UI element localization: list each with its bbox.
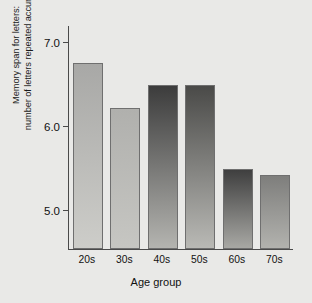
- bar-series: [69, 26, 293, 249]
- bar-70s: [260, 175, 290, 249]
- x-tick-label-70s: 70s: [266, 254, 283, 265]
- x-tick-label-20s: 20s: [78, 254, 95, 265]
- y-tick-label: 5.0: [44, 205, 60, 217]
- x-tick-label-30s: 30s: [116, 254, 133, 265]
- bar-40s: [148, 85, 178, 249]
- y-axis-label: Memory span for letters: number of lette…: [7, 0, 37, 163]
- plot-area: 7.06.05.0: [68, 26, 293, 250]
- bar-chart-figure: Memory span for letters: number of lette…: [0, 0, 312, 303]
- x-tick-label-50s: 50s: [191, 254, 208, 265]
- bar-60s: [223, 169, 253, 249]
- x-tick-label-40s: 40s: [153, 254, 170, 265]
- y-tick-label: 6.0: [44, 121, 60, 133]
- bar-30s: [110, 108, 140, 249]
- y-axis-label-line2: number of letters repeated accurately: [22, 0, 34, 130]
- y-axis-label-line1: Memory span for letters:: [10, 6, 22, 104]
- y-tick-label: 7.0: [44, 37, 60, 49]
- x-axis-label: Age group: [0, 276, 312, 288]
- bar-20s: [73, 63, 103, 249]
- bar-50s: [185, 85, 215, 249]
- x-tick-label-60s: 60s: [228, 254, 245, 265]
